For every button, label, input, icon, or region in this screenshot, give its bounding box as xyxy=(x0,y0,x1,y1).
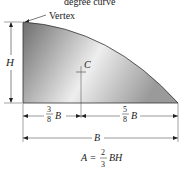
left-dim-var: B xyxy=(55,110,61,121)
curve-title-text: degree curve xyxy=(64,0,116,7)
arrow-up-icon xyxy=(9,22,13,27)
left-dim-numerator: 3 xyxy=(47,105,51,114)
formula-lhs: A = xyxy=(80,152,96,163)
centroid-label: C xyxy=(84,59,91,70)
spandrel-area xyxy=(23,22,178,103)
spandrel-diagram: degree curve Vertex H C 3 8 B 5 8 B B A … xyxy=(0,0,180,172)
height-label: H xyxy=(5,56,15,68)
base-label: B xyxy=(94,132,100,143)
formula-denominator: 3 xyxy=(101,160,105,169)
formula-rhs: BH xyxy=(109,152,123,163)
vertex-label: Vertex xyxy=(49,10,75,21)
arrow-down-icon xyxy=(9,98,13,103)
right-dim-denominator: 8 xyxy=(123,115,127,124)
formula-numerator: 2 xyxy=(101,148,105,157)
right-dim-var: B xyxy=(131,110,137,121)
right-dim-numerator: 5 xyxy=(123,105,127,114)
left-dim-denominator: 8 xyxy=(47,115,51,124)
